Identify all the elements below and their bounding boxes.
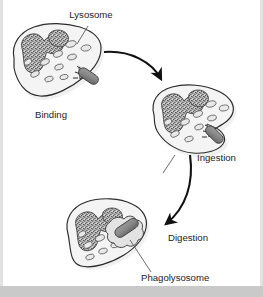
label-ingestion: Ingestion bbox=[197, 152, 236, 163]
arrow-ingestion-to-digestion bbox=[166, 155, 191, 224]
stage-digestion-cell bbox=[67, 199, 149, 270]
footer-bar bbox=[0, 286, 263, 297]
phagocytosis-diagram: Lysosome Binding Ingestion Digestion Pha… bbox=[0, 0, 263, 297]
label-lysosome: Lysosome bbox=[69, 9, 112, 20]
stage-binding-cell bbox=[13, 24, 104, 100]
label-binding: Binding bbox=[35, 109, 67, 120]
leader-line-ingestion bbox=[163, 155, 175, 173]
label-phagolysosome: Phagolysosome bbox=[141, 272, 209, 283]
figure-canvas: Lysosome Binding Ingestion Digestion Pha… bbox=[0, 0, 263, 297]
stage-ingestion-cell bbox=[153, 85, 236, 157]
arrow-binding-to-ingestion bbox=[104, 52, 161, 79]
label-digestion: Digestion bbox=[168, 232, 208, 243]
